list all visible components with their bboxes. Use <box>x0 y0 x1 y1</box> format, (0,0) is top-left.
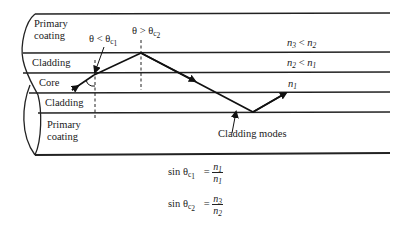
eq-sign: = <box>204 166 210 177</box>
numerator: n3 <box>212 193 223 205</box>
label-cladding-top: Cladding <box>32 57 71 69</box>
sub: 1 <box>312 61 316 70</box>
sub: 2 <box>218 209 222 218</box>
eq-sign: = <box>204 198 210 209</box>
index-note-coating: n3 < n2 <box>287 37 316 49</box>
label-primary-coating-bottom: Primary coating <box>47 119 81 143</box>
sub: 2 <box>157 31 161 40</box>
eq-lhs: sin θ <box>168 166 188 177</box>
label-line: coating <box>34 30 68 42</box>
label-line: Primary <box>47 119 81 131</box>
sub: 1 <box>114 39 118 48</box>
sub: 2 <box>191 204 195 213</box>
sub: 2 <box>312 41 316 50</box>
fraction: n3 n2 <box>212 193 223 216</box>
label-line: Primary <box>34 18 68 30</box>
numerator: n1 <box>212 161 223 173</box>
label-core: Core <box>39 77 59 89</box>
denominator: n1 <box>212 173 223 184</box>
sub: 1 <box>191 172 195 181</box>
angle-label-left: θ < θc1 <box>89 33 117 45</box>
label-line: coating <box>47 131 81 143</box>
ray-path <box>72 53 286 112</box>
angle-arc <box>86 80 95 86</box>
angle-label-right: θ > θc2 <box>132 25 160 37</box>
sub: 1 <box>293 82 297 91</box>
denominator: n2 <box>212 205 223 216</box>
angle-text: θ < θ <box>89 33 110 44</box>
rel: < <box>296 37 307 48</box>
fraction: n1 n1 <box>212 161 223 184</box>
rel: < <box>296 57 307 68</box>
sub: 1 <box>218 177 222 186</box>
label-primary-coating-top: Primary coating <box>34 18 68 42</box>
label-cladding-bottom: Cladding <box>45 97 84 109</box>
angle-text: θ > θ <box>132 25 153 36</box>
equation-1: sin θc1 = n1 n1 <box>168 161 223 184</box>
eq-lhs: sin θ <box>168 198 188 209</box>
index-note-cladding: n2 < n1 <box>287 57 316 69</box>
cladding-modes-label: Cladding modes <box>218 128 287 140</box>
angle-pointer <box>95 47 104 72</box>
index-note-core: n1 <box>288 78 297 90</box>
equation-2: sin θc2 = n3 n2 <box>168 193 223 216</box>
